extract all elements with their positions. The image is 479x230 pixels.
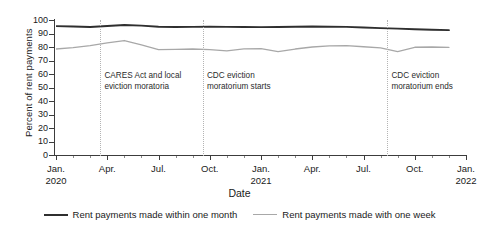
legend-swatch-light-icon <box>253 214 277 215</box>
x-tick-mark-10 <box>227 156 228 158</box>
y-tick-mark-10 <box>49 142 54 143</box>
x-tick-month: Apr. <box>99 163 116 174</box>
legend-swatch-dark-icon <box>44 214 68 216</box>
series-line-within-one-week <box>56 41 449 52</box>
y-tick-label-100: 100 <box>22 16 48 25</box>
y-tick-label-20: 20 <box>22 124 48 133</box>
x-tick-year: 2022 <box>436 175 479 187</box>
y-tick-label-90: 90 <box>22 29 48 38</box>
y-tick-label-80: 80 <box>22 43 48 52</box>
x-tick-month: Jul. <box>151 163 166 174</box>
y-axis-tick-labels: 0102030405060708090100 <box>22 14 48 156</box>
x-tick-year: 2021 <box>231 175 291 187</box>
y-tick-label-70: 70 <box>22 56 48 65</box>
x-tick-mark-15 <box>312 156 313 160</box>
y-tick-mark-30 <box>49 115 54 116</box>
legend-item-within-one-week: Rent payments made with one week <box>253 209 435 220</box>
y-tick-mark-100 <box>49 20 54 21</box>
x-tick-mark-24 <box>466 156 467 160</box>
x-tick-mark-0 <box>56 156 57 160</box>
x-tick-mark-20 <box>398 156 399 158</box>
y-tick-mark-90 <box>49 34 54 35</box>
x-tick-mark-9 <box>210 156 211 160</box>
annotation-text-1: CDC eviction moratorium starts <box>207 70 287 92</box>
x-tick-month: Apr. <box>304 163 321 174</box>
x-tick-month: Jan. <box>457 163 475 174</box>
x-tick-year: 2020 <box>26 175 86 187</box>
rent-payments-line-chart: Percent of rent payments 010203040506070… <box>0 0 479 230</box>
x-tick-month: Jan. <box>47 163 65 174</box>
annotation-line-1 <box>203 20 204 156</box>
x-tick-mark-14 <box>295 156 296 158</box>
y-tick-mark-70 <box>49 61 54 62</box>
y-axis-line <box>54 19 55 156</box>
x-tick-month: Jul. <box>356 163 371 174</box>
y-tick-label-30: 30 <box>22 110 48 119</box>
y-tick-label-0: 0 <box>22 151 48 160</box>
legend-label-within-one-week: Rent payments made with one week <box>282 209 435 220</box>
x-tick-mark-3 <box>107 156 108 160</box>
x-tick-month: Oct. <box>201 163 218 174</box>
x-tick-mark-2 <box>90 156 91 158</box>
y-tick-mark-80 <box>49 47 54 48</box>
y-tick-mark-40 <box>49 101 54 102</box>
y-tick-label-60: 60 <box>22 70 48 79</box>
x-tick-mark-21 <box>415 156 416 160</box>
x-tick-mark-4 <box>124 156 125 158</box>
x-tick-mark-23 <box>449 156 450 158</box>
annotation-text-0: CARES Act and local eviction moratoria <box>104 70 184 92</box>
chart-legend: Rent payments made within one month Rent… <box>0 209 479 220</box>
x-tick-mark-8 <box>193 156 194 158</box>
x-tick-mark-17 <box>346 156 347 158</box>
legend-label-within-one-month: Rent payments made within one month <box>73 209 238 220</box>
x-tick-mark-12 <box>261 156 262 160</box>
x-tick-month: Oct. <box>406 163 423 174</box>
y-tick-mark-50 <box>49 88 54 89</box>
x-tick-mark-5 <box>141 156 142 158</box>
x-tick-month: Jan. <box>252 163 270 174</box>
x-axis-title: Date <box>0 187 479 199</box>
y-tick-label-10: 10 <box>22 137 48 146</box>
x-tick-mark-16 <box>329 156 330 158</box>
x-tick-mark-13 <box>278 156 279 158</box>
y-tick-label-40: 40 <box>22 97 48 106</box>
annotation-text-2: CDC eviction moratorium ends <box>391 70 471 92</box>
x-tick-mark-11 <box>244 156 245 158</box>
y-tick-mark-20 <box>49 128 54 129</box>
y-tick-mark-0 <box>49 155 54 156</box>
y-tick-label-50: 50 <box>22 83 48 92</box>
x-tick-mark-1 <box>73 156 74 158</box>
x-tick-mark-19 <box>381 156 382 158</box>
x-tick-mark-7 <box>176 156 177 158</box>
legend-item-within-one-month: Rent payments made within one month <box>44 209 238 220</box>
y-tick-mark-60 <box>49 74 54 75</box>
x-tick-mark-6 <box>159 156 160 160</box>
x-tick-mark-18 <box>364 156 365 160</box>
annotation-line-2 <box>387 20 388 156</box>
x-tick-mark-22 <box>432 156 433 158</box>
x-tick-label-8: Jan.2022 <box>436 163 479 186</box>
series-line-within-one-month <box>56 25 449 30</box>
annotation-line-0 <box>100 20 101 156</box>
